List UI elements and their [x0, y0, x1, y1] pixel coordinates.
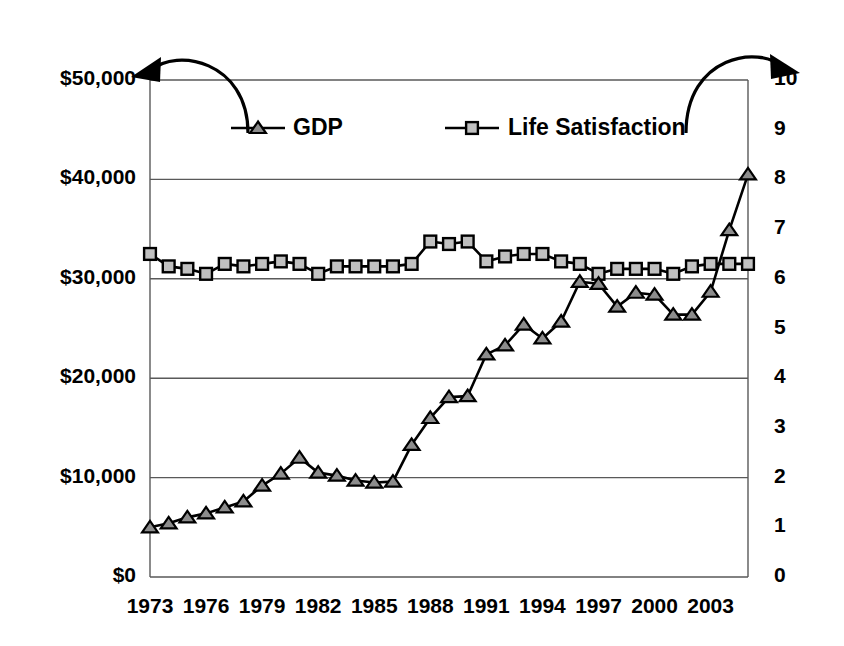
y-axis-right-tick-label: 9	[774, 116, 786, 140]
y-axis-left-tick-label: $20,000	[60, 364, 136, 388]
data-point-marker-square	[480, 256, 492, 268]
legend-marker-life-satisfaction	[466, 122, 478, 134]
data-point-marker-square	[723, 258, 735, 270]
y-axis-right-tick-label: 7	[774, 215, 786, 239]
y-axis-right-tick-label: 2	[774, 464, 786, 488]
data-point-marker-triangle	[721, 224, 737, 235]
data-point-marker-square	[462, 236, 474, 248]
data-point-marker-square	[574, 258, 586, 270]
data-point-marker-square	[686, 260, 698, 272]
data-point-marker-square	[181, 263, 193, 275]
data-point-marker-square	[275, 256, 287, 268]
data-point-marker-square	[387, 260, 399, 272]
data-point-marker-square	[555, 256, 567, 268]
data-point-marker-square	[219, 258, 231, 270]
gdp-axis-arrow	[152, 60, 248, 133]
legend-label-life-satisfaction[interactable]: Life Satisfaction	[508, 114, 686, 141]
series-life-satisfaction	[144, 236, 754, 280]
data-point-marker-square	[649, 263, 661, 275]
y-axis-right-tick-label: 6	[774, 265, 786, 289]
data-point-marker-triangle	[292, 451, 308, 462]
data-point-marker-triangle	[740, 168, 756, 179]
data-point-marker-triangle	[572, 275, 588, 286]
data-point-marker-square	[238, 260, 250, 272]
chart-container: $0$10,000$20,000$30,000$40,000$50,000 01…	[0, 0, 844, 646]
y-axis-right-tick-label: 0	[774, 563, 786, 587]
y-axis-left-tick-label: $30,000	[60, 265, 136, 289]
y-axis-right-tick-label: 1	[774, 513, 786, 537]
data-point-marker-square	[294, 258, 306, 270]
data-point-marker-triangle	[553, 315, 569, 326]
data-point-marker-square	[368, 260, 380, 272]
data-point-marker-square	[331, 260, 343, 272]
data-point-marker-square	[742, 258, 754, 270]
series-line	[150, 174, 748, 527]
x-axis-tick-label: 2003	[676, 594, 746, 618]
legend-label-gdp[interactable]: GDP	[293, 114, 343, 141]
y-axis-left-tick-label: $50,000	[60, 66, 136, 90]
y-axis-right-tick-label: 5	[774, 315, 786, 339]
y-axis-right-tick-label: 3	[774, 414, 786, 438]
data-point-marker-square	[200, 268, 212, 280]
data-point-marker-square	[144, 248, 156, 260]
y-axis-right-tick-label: 10	[774, 66, 797, 90]
data-point-marker-square	[705, 258, 717, 270]
data-point-marker-square	[518, 248, 530, 260]
data-point-marker-triangle	[703, 285, 719, 296]
data-point-marker-triangle	[478, 348, 494, 359]
data-point-marker-square	[312, 268, 324, 280]
data-point-marker-square	[406, 258, 418, 270]
data-point-marker-square	[499, 251, 511, 263]
y-axis-right-tick-label: 8	[774, 165, 786, 189]
data-point-marker-square	[630, 263, 642, 275]
data-point-marker-square	[424, 236, 436, 248]
y-axis-left-tick-label: $40,000	[60, 165, 136, 189]
y-axis-right-tick-label: 4	[774, 364, 786, 388]
data-point-marker-square	[163, 260, 175, 272]
chart-plot-area	[0, 0, 844, 646]
data-point-marker-square	[350, 260, 362, 272]
data-point-marker-square	[611, 263, 623, 275]
data-point-marker-triangle	[404, 438, 420, 449]
data-point-marker-triangle	[628, 286, 644, 297]
legend-markers	[231, 122, 499, 134]
data-point-marker-square	[537, 248, 549, 260]
data-point-marker-square	[443, 238, 455, 250]
y-axis-left-tick-label: $10,000	[60, 464, 136, 488]
data-point-marker-square	[667, 268, 679, 280]
life-satisfaction-axis-arrow	[686, 57, 782, 133]
data-point-marker-square	[256, 258, 268, 270]
y-axis-left-tick-label: $0	[113, 563, 136, 587]
data-point-marker-triangle	[516, 318, 532, 329]
